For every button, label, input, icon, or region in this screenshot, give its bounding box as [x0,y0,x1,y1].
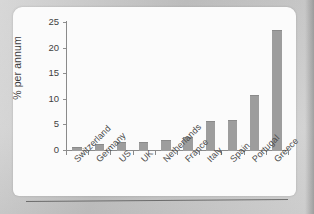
y-tick-mark [63,73,67,74]
y-tick-mark [63,22,67,23]
x-tick-mark [66,151,67,155]
bar [250,95,260,151]
y-tick-mark [63,99,67,100]
y-axis-title: % per annum [11,20,23,116]
y-tick-label: 10 [37,93,59,104]
y-tick-label: 5 [37,118,59,129]
bar-chart: % per annum 0510152025 SwitzerlandGerman… [0,0,314,214]
y-tick-label: 0 [37,144,59,155]
bar [228,120,238,151]
scan-edge-shading [305,0,314,214]
y-tick-mark [63,124,67,125]
y-axis-line [66,21,67,151]
y-tick-mark [63,48,67,49]
y-tick-label: 20 [37,42,59,53]
y-tick-label: 15 [37,67,59,78]
y-tick-label: 25 [37,16,59,27]
